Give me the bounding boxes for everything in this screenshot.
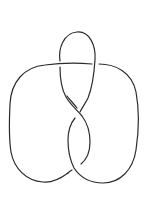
left-descender-strand [60, 67, 90, 164]
twist-lower-strand [68, 170, 72, 173]
top-arc-left-strand [9, 63, 92, 182]
knot-diagram [0, 0, 148, 197]
top-loop-strand [60, 32, 95, 112]
twist-upper-strand [67, 96, 77, 108]
top-arc-right-strand [68, 64, 138, 183]
